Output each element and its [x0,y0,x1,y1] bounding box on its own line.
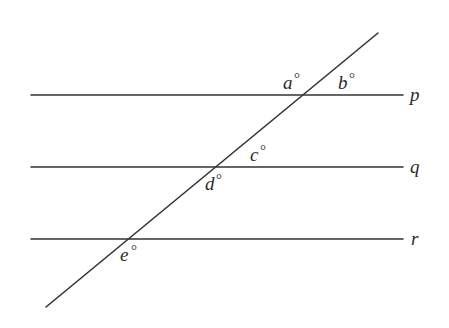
line-label-p: p [408,84,420,105]
angle-label-c: c [250,144,259,165]
line-label-q: q [410,156,420,177]
angle-label-d: d [205,173,215,194]
degree-symbol-c: ° [260,142,266,158]
angle-label-a: a [283,72,293,93]
degree-symbol-e: ° [131,242,137,258]
line-label-r: r [411,228,419,249]
transversal-line [46,33,378,307]
angle-label-e: e [120,244,128,265]
parallel-lines-diagram: p q r a ° b ° c ° d ° e ° [0,0,449,328]
degree-symbol-d: ° [216,171,222,187]
angle-label-b: b [338,72,348,93]
degree-symbol-a: ° [294,70,300,86]
degree-symbol-b: ° [349,70,355,86]
